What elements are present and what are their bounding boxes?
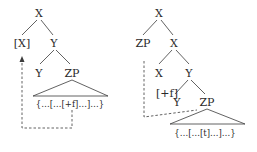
node-x-bar: X <box>170 37 178 50</box>
node-x-root: X <box>155 7 163 20</box>
node-y: Y <box>184 67 193 80</box>
branch <box>161 20 173 35</box>
zp-triangle <box>170 109 245 124</box>
node-zp: ZP <box>199 96 215 109</box>
branch <box>176 50 189 64</box>
branch <box>22 20 37 35</box>
arrow-head-icon <box>20 56 25 62</box>
node-x-copy: [X] <box>14 37 30 50</box>
node-x-head: X <box>155 67 163 80</box>
branch <box>56 50 70 64</box>
branch <box>143 20 157 35</box>
node-y-head: Y <box>172 96 181 109</box>
node-x-root: X <box>35 7 43 20</box>
zp-triangle <box>33 80 108 96</box>
node-y-head: Y <box>34 67 43 80</box>
zp-content: {…[…[t]…]…} <box>174 128 236 138</box>
right-tree: X ZP X X Y [+f] Y ZP {…[…[t]…]…} <box>135 7 245 138</box>
node-y: Y <box>49 37 58 50</box>
branch <box>159 50 172 64</box>
left-tree: X [X] Y Y ZP {…[…[+f]…]…} <box>14 7 108 128</box>
branch <box>191 80 205 94</box>
zp-content: {…[…[+f]…]…} <box>36 99 104 109</box>
branch <box>40 50 54 64</box>
node-zp: ZP <box>64 67 80 80</box>
branch <box>41 20 53 35</box>
node-zp-spec: ZP <box>135 37 151 50</box>
